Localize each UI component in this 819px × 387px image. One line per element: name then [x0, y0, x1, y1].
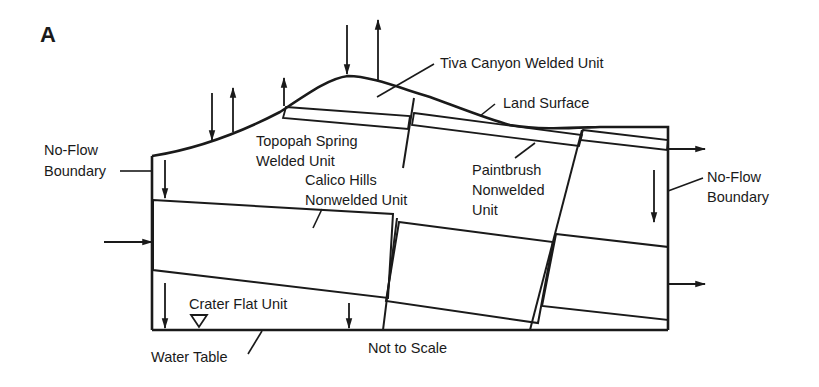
fault-line-2: [530, 130, 582, 330]
label-land-surface: Land Surface: [503, 95, 589, 111]
label-no-flow-right-2: Boundary: [707, 189, 770, 205]
label-not-to-scale: Not to Scale: [368, 340, 447, 356]
label-tiva-canyon: Tiva Canyon Welded Unit: [440, 55, 604, 71]
label-paintbrush-1: Paintbrush: [472, 162, 541, 178]
label-topopah-2: Welded Unit: [256, 153, 335, 169]
label-no-flow-right-1: No-Flow: [707, 169, 762, 185]
label-topopah-1: Topopah Spring: [256, 133, 358, 149]
flow-arrows: [104, 20, 705, 328]
water-table-symbol-icon: [191, 315, 207, 327]
label-no-flow-left-2: Boundary: [44, 163, 107, 179]
label-paintbrush-3: Unit: [472, 202, 498, 218]
panel-label: A: [40, 22, 56, 47]
label-crater-flat: Crater Flat Unit: [189, 296, 287, 312]
fault-line-1-lower: [383, 218, 397, 330]
fault-line-1: [403, 98, 414, 168]
label-water-table: Water Table: [151, 349, 228, 365]
label-paintbrush-2: Nonwelded: [472, 182, 545, 198]
hydrogeologic-cross-section: A: [0, 0, 819, 387]
label-calico-1: Calico Hills: [305, 172, 377, 188]
label-no-flow-left-1: No-Flow: [44, 142, 99, 158]
label-calico-2: Nonwelded Unit: [305, 192, 407, 208]
